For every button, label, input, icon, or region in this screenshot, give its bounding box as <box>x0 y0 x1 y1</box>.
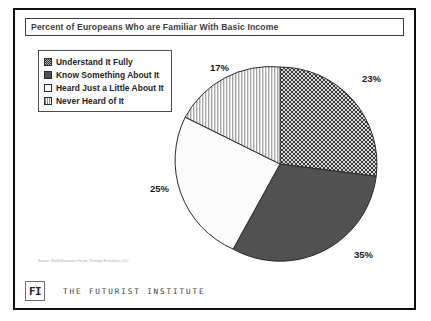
futurist-institute-logo: FI <box>25 281 45 301</box>
legend-swatch-icon <box>44 71 52 79</box>
data-label-never-heard-of-it: 17% <box>210 62 229 73</box>
legend-item: Never Heard of It <box>44 94 164 107</box>
legend-item-label: Heard Just a Little About It <box>56 83 164 93</box>
legend-item-label: Understand It Fully <box>56 57 133 67</box>
legend-item: Heard Just a Little About It <box>44 81 164 94</box>
legend-item: Know Something About It <box>44 68 164 81</box>
footer: FI THE FUTURIST INSTITUTE <box>25 276 404 306</box>
chart-legend: Understand It Fully Know Something About… <box>38 50 172 112</box>
footer-organization-name: THE FUTURIST INSTITUTE <box>63 287 205 296</box>
legend-swatch-icon <box>44 84 52 92</box>
source-note: Source: World Economic Forum, Prestige E… <box>38 259 129 263</box>
document-frame: Percent of Europeans Who are Familiar Wi… <box>13 8 416 310</box>
data-label-heard-just-a-little-about-it: 25% <box>150 183 169 194</box>
chart-title-bar: Percent of Europeans Who are Familiar Wi… <box>25 18 404 36</box>
legend-item: Understand It Fully <box>44 55 164 68</box>
legend-item-label: Know Something About It <box>56 70 159 80</box>
legend-swatch-icon <box>44 58 52 66</box>
chart-plot-area: Understand It Fully Know Something About… <box>25 37 404 272</box>
data-label-know-something-about-it: 35% <box>354 249 373 260</box>
data-label-understand-it-fully: 23% <box>362 73 381 84</box>
legend-item-label: Never Heard of It <box>56 96 124 106</box>
page-title: Percent of Europeans Who are Familiar Wi… <box>26 22 278 32</box>
legend-swatch-icon <box>44 97 52 105</box>
